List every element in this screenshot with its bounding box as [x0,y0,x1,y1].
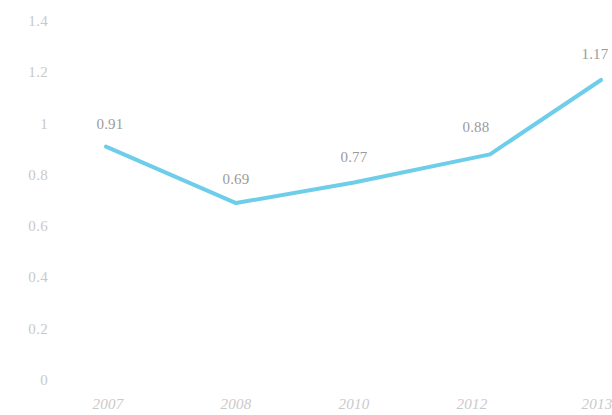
line-chart: 1.4 1.2 1 0.8 0.6 0.4 0.2 0 0.91 0.69 0.… [0,0,612,415]
x-axis: 2007 2008 2010 2012 2013 [0,0,612,415]
x-tick-label: 2012 [456,396,487,413]
x-tick-label: 2007 [92,396,123,413]
x-tick-label: 2008 [220,396,251,413]
x-tick-label: 2010 [338,396,369,413]
x-tick-label: 2013 [581,396,612,413]
